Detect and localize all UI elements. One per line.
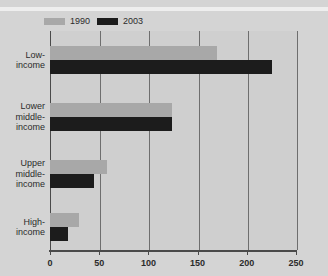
category-label-line: Lower: [15, 101, 45, 112]
category-label-line: High-: [16, 217, 45, 228]
legend-entry-1990: 1990: [44, 17, 90, 26]
bar-1990-group-0: [50, 46, 217, 60]
category-label-line: income: [15, 122, 45, 133]
category-label-2: Uppermiddle-income: [15, 158, 45, 190]
x-tick-label-0: 0: [47, 258, 52, 268]
legend-label-2003: 2003: [123, 17, 143, 26]
bar-1990-group-1: [50, 103, 172, 117]
category-label-line: income: [16, 227, 45, 238]
x-tick-mark-100: [148, 250, 149, 255]
bar-2003-group-1: [50, 117, 172, 131]
x-tick-mark-50: [99, 250, 100, 255]
legend-label-1990: 1990: [70, 17, 90, 26]
bar-chart: 1990 2003 Low-incomeLowermiddle-incomeUp…: [0, 0, 328, 276]
category-label-1: Lowermiddle-income: [15, 101, 45, 133]
x-tick-mark-0: [50, 250, 51, 255]
gridline-250: [297, 31, 298, 250]
bar-2003-group-2: [50, 174, 94, 188]
category-label-line: income: [16, 60, 45, 71]
x-tick-mark-150: [198, 250, 199, 255]
bar-1990-group-3: [50, 213, 79, 227]
category-label-0: Low-income: [16, 50, 45, 71]
x-tick-mark-250: [296, 250, 297, 255]
x-tick-label-200: 200: [239, 258, 254, 268]
bar-2003-group-0: [50, 60, 272, 74]
category-label-line: income: [15, 179, 45, 190]
x-tick-label-100: 100: [141, 258, 156, 268]
legend-entry-2003: 2003: [97, 17, 143, 26]
chart-title-strip: [0, 0, 328, 7]
bar-2003-group-3: [50, 227, 68, 241]
category-label-line: Upper: [15, 158, 45, 169]
x-tick-label-250: 250: [288, 258, 303, 268]
x-tick-label-50: 50: [94, 258, 104, 268]
legend-swatch-2003-icon: [97, 18, 118, 25]
bar-1990-group-2: [50, 160, 107, 174]
category-label-line: middle-: [15, 169, 45, 180]
chart-legend: 1990 2003: [44, 15, 143, 27]
category-label-3: High-income: [16, 217, 45, 238]
x-tick-mark-200: [247, 250, 248, 255]
category-label-line: Low-: [16, 50, 45, 61]
legend-swatch-1990-icon: [44, 18, 65, 25]
x-axis-line: [49, 250, 297, 252]
title-divider: [0, 7, 328, 11]
category-label-line: middle-: [15, 112, 45, 123]
x-tick-label-150: 150: [190, 258, 205, 268]
